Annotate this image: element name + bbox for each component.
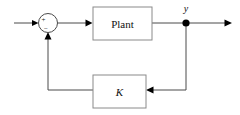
summing-junction-plus-sign: + xyxy=(42,16,46,24)
wire-output-signal xyxy=(186,19,232,26)
arrow-head-icon xyxy=(225,19,233,26)
block-diagram-canvas: + − Plant K y xyxy=(0,0,240,115)
controller-block[interactable]: K xyxy=(93,75,146,108)
controller-block-label: K xyxy=(115,86,124,98)
arrow-head-icon xyxy=(86,20,93,27)
output-node-dot xyxy=(182,19,189,26)
block-diagram-svg: + − Plant K y xyxy=(0,0,240,115)
output-node: y xyxy=(182,3,189,27)
wire-feedback-signal xyxy=(45,32,94,90)
plant-block[interactable]: Plant xyxy=(93,7,152,40)
summing-junction: + − xyxy=(39,14,58,33)
plant-block-label: Plant xyxy=(111,18,134,30)
wire-reference-input xyxy=(14,20,39,26)
arrow-head-icon xyxy=(146,86,154,93)
summing-junction-minus-sign: − xyxy=(44,25,48,33)
wire-error-signal xyxy=(58,20,93,27)
arrow-head-icon xyxy=(32,20,39,26)
arrow-head-icon xyxy=(45,32,52,40)
output-signal-label: y xyxy=(183,3,189,14)
